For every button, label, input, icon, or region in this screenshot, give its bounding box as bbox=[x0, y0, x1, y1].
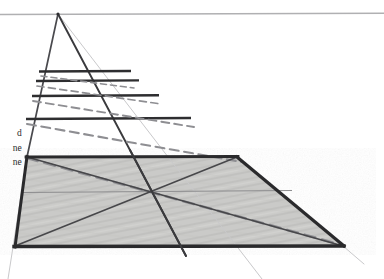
margin-text-line-1: d bbox=[0, 126, 22, 141]
margin-text-block: d ne ne bbox=[0, 126, 22, 170]
margin-text-line-3: ne bbox=[0, 155, 22, 170]
margin-text-line-2: ne bbox=[0, 141, 22, 156]
vanishing-point-marker bbox=[56, 12, 59, 15]
diagram-canvas bbox=[0, 0, 384, 279]
ground-plane-edge-bottom bbox=[14, 246, 344, 247]
transversal-4 bbox=[26, 118, 191, 119]
ground-plane-edge-top bbox=[26, 157, 238, 158]
perspective-diagram: d ne ne bbox=[0, 0, 384, 279]
transversal-1 bbox=[39, 71, 131, 72]
transversal-2 bbox=[36, 80, 139, 81]
